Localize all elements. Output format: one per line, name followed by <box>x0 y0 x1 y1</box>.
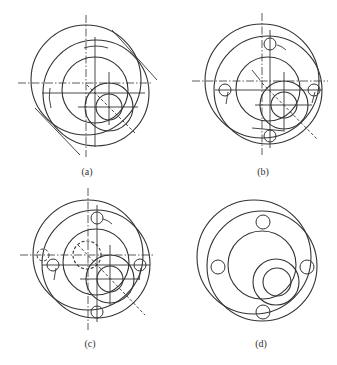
flange-circle <box>253 259 299 305</box>
caption-b: (b) <box>257 166 269 177</box>
construction-arc <box>84 46 108 48</box>
construction-line <box>226 92 228 104</box>
panel-b-construction-step <box>192 13 328 155</box>
construction-arc <box>49 88 51 108</box>
bolt-hole-circle <box>211 260 225 274</box>
caption-a: (a) <box>81 166 92 177</box>
bolt-hole-circle <box>256 215 270 229</box>
panel-d-final-drawing <box>197 200 317 321</box>
flange-circle <box>228 231 296 299</box>
caption-d: (d) <box>255 338 267 349</box>
construction-line <box>112 30 157 80</box>
bolt-hole-circle <box>300 260 314 274</box>
flange-circle <box>263 268 291 296</box>
construction-line <box>252 70 260 80</box>
caption-c: (c) <box>84 338 95 349</box>
construction-line <box>312 92 315 103</box>
panel-a-construction-step <box>18 15 157 157</box>
flange-circle <box>63 229 129 295</box>
flange-construction-figure <box>0 0 337 365</box>
construction-arc <box>103 219 112 224</box>
construction-arc <box>277 45 286 50</box>
construction-line <box>54 268 56 280</box>
panel-c-construction-step <box>20 188 155 330</box>
